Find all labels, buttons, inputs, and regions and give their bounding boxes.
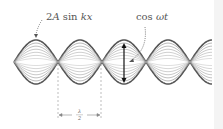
standing-wave-curves: [14, 40, 212, 84]
time-factor-label: cos ωt: [136, 11, 169, 22]
envelope-pointer: [34, 20, 42, 38]
standing-wave-figure: λ 2 2A sin kx cos ωt: [0, 0, 223, 129]
lambda-denominator: 2: [77, 115, 81, 121]
lambda-numerator: λ: [77, 108, 81, 114]
envelope-label: 2A sin kx: [46, 11, 93, 22]
